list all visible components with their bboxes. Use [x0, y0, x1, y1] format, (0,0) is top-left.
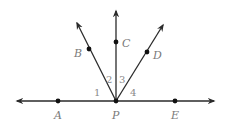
angle-label-1: 1 — [94, 87, 100, 98]
angle-diagram: A P E B C D 1 2 3 4 — [0, 0, 229, 127]
label-d: D — [152, 49, 162, 62]
label-b: B — [73, 47, 82, 60]
point-e — [173, 99, 178, 104]
angle-label-2: 2 — [106, 74, 112, 85]
point-d — [145, 50, 150, 55]
label-c: C — [122, 37, 131, 50]
point-b — [87, 47, 92, 52]
point-p — [114, 99, 119, 104]
angle-label-3: 3 — [119, 74, 125, 85]
label-p: P — [111, 109, 120, 122]
label-a: A — [53, 109, 62, 122]
label-e: E — [170, 109, 179, 122]
point-c — [114, 40, 119, 45]
point-a — [56, 99, 61, 104]
angle-label-4: 4 — [130, 87, 136, 98]
